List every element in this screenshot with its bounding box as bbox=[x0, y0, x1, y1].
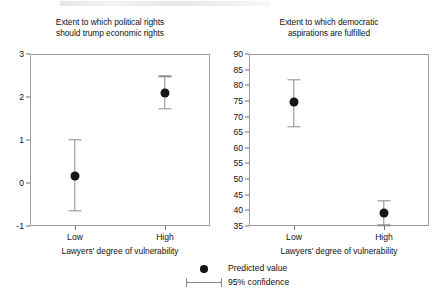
ytick-label-right-75: 75 bbox=[219, 97, 243, 106]
figure-panel-pair: Extent to which political rights should … bbox=[0, 0, 438, 300]
ytick-mark-left--1 bbox=[26, 226, 30, 227]
plot-area-left bbox=[30, 54, 210, 226]
ytick-label-left-0: 0 bbox=[0, 179, 24, 188]
ytick-label-right-65: 65 bbox=[219, 128, 243, 137]
ytick-mark-right-80 bbox=[245, 85, 249, 86]
ytick-label-left-2: 2 bbox=[0, 93, 24, 102]
legend-label-confidence: 95% confidence bbox=[228, 276, 289, 289]
chart-title-left: Extent to which political rights should … bbox=[14, 17, 206, 39]
xaxis-title-left: Lawyers' degree of vulnerability bbox=[61, 247, 178, 255]
ytick-mark-right-75 bbox=[245, 100, 249, 101]
error-bar-cap-lower-left-low bbox=[69, 210, 82, 211]
xtick-mark-right-high bbox=[384, 226, 385, 230]
xaxis-title-right: Lawyers' degree of vulnerability bbox=[280, 247, 397, 255]
chart-legend: Predicted value 95% confidence bbox=[176, 262, 356, 294]
plot-area-right bbox=[249, 54, 429, 226]
ytick-mark-left-2 bbox=[26, 97, 30, 98]
error-bar-cap-upper-left-high bbox=[159, 76, 172, 77]
ytick-label-left-3: 3 bbox=[0, 50, 24, 59]
confidence-interval-cap-left-icon bbox=[186, 278, 187, 287]
ytick-mark-right-55 bbox=[245, 163, 249, 164]
ytick-mark-right-50 bbox=[245, 179, 249, 180]
xtick-mark-left-high bbox=[165, 226, 166, 230]
xtick-label-right-high: High bbox=[375, 233, 393, 242]
ytick-mark-right-90 bbox=[245, 54, 249, 55]
chart-title-right-line2: aspirations are fulfilled bbox=[233, 28, 425, 39]
confidence-interval-line-icon bbox=[186, 282, 222, 283]
error-bar-cap-lower-right-high bbox=[378, 225, 391, 226]
ytick-label-left-1: 1 bbox=[0, 136, 24, 145]
xtick-label-left-low: Low bbox=[67, 233, 83, 242]
ytick-label-right-85: 85 bbox=[219, 65, 243, 74]
chart-title-right-line1: Extent to which democratic bbox=[233, 17, 425, 28]
predicted-value-dot-icon bbox=[200, 265, 208, 273]
ytick-mark-right-70 bbox=[245, 116, 249, 117]
ytick-label-right-50: 50 bbox=[219, 175, 243, 184]
ytick-mark-right-35 bbox=[245, 226, 249, 227]
chart-panel-democratic-aspirations: Extent to which democratic aspirations a… bbox=[219, 14, 438, 250]
ytick-mark-left-0 bbox=[26, 183, 30, 184]
ytick-label-right-70: 70 bbox=[219, 112, 243, 121]
data-point-right-low bbox=[290, 97, 299, 106]
xtick-mark-left-low bbox=[75, 226, 76, 230]
chart-title-left-line1: Extent to which political rights bbox=[14, 17, 206, 28]
chart-panel-political-rights: Extent to which political rights should … bbox=[0, 14, 219, 250]
ytick-label-right-45: 45 bbox=[219, 190, 243, 199]
ytick-mark-right-45 bbox=[245, 194, 249, 195]
confidence-interval-cap-right-icon bbox=[221, 278, 222, 287]
chart-title-right: Extent to which democratic aspirations a… bbox=[233, 17, 425, 39]
error-bar-cap-upper-left-low bbox=[69, 139, 82, 140]
chart-title-left-line2: should trump economic rights bbox=[14, 28, 206, 39]
error-bar-cap-upper-right-high bbox=[378, 200, 391, 201]
ytick-mark-right-40 bbox=[245, 210, 249, 211]
page-header-remnant bbox=[60, 1, 270, 6]
error-bar-cap-lower-right-low bbox=[288, 126, 301, 127]
xtick-mark-right-low bbox=[294, 226, 295, 230]
ytick-label-right-80: 80 bbox=[219, 81, 243, 90]
ytick-label-right-60: 60 bbox=[219, 144, 243, 153]
xtick-label-right-low: Low bbox=[286, 233, 302, 242]
legend-label-predicted-value: Predicted value bbox=[228, 262, 287, 275]
error-bar-cap-lower-left-high bbox=[159, 108, 172, 109]
ytick-label-right-35: 35 bbox=[219, 222, 243, 231]
ytick-mark-right-60 bbox=[245, 147, 249, 148]
ytick-label-right-40: 40 bbox=[219, 206, 243, 215]
ytick-mark-right-65 bbox=[245, 132, 249, 133]
ytick-mark-left-3 bbox=[26, 54, 30, 55]
ytick-label-left--1: -1 bbox=[0, 222, 24, 231]
error-bar-cap-upper-right-low bbox=[288, 79, 301, 80]
ytick-mark-left-1 bbox=[26, 140, 30, 141]
ytick-label-right-90: 90 bbox=[219, 50, 243, 59]
xtick-label-left-high: High bbox=[156, 233, 174, 242]
ytick-mark-right-85 bbox=[245, 69, 249, 70]
ytick-label-right-55: 55 bbox=[219, 159, 243, 168]
data-point-right-high bbox=[380, 208, 389, 217]
data-point-left-low bbox=[71, 171, 80, 180]
data-point-left-high bbox=[161, 88, 170, 97]
